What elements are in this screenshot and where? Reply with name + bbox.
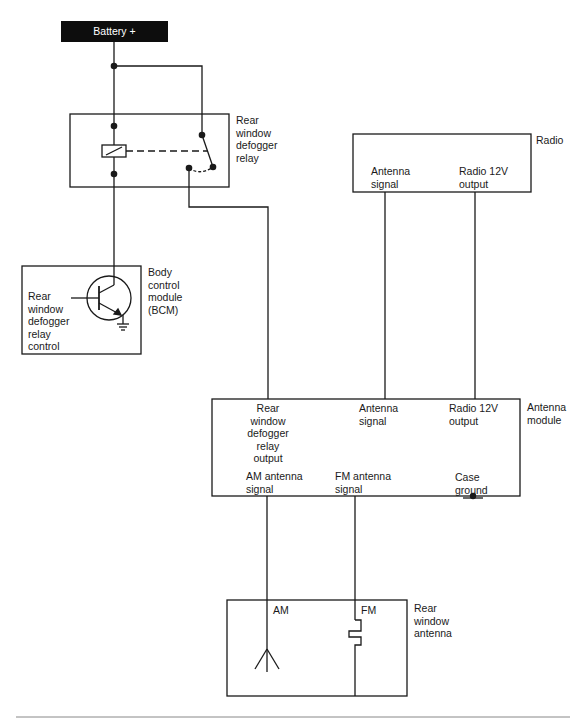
- relay-label: Rear window defogger relay: [236, 114, 277, 164]
- radio-pin-12v-output: Radio 12V output: [459, 165, 508, 190]
- radio-label: Radio: [536, 134, 563, 147]
- bcm-label: Body control module (BCM): [148, 266, 182, 316]
- am-pin-case-ground: Case ground: [455, 471, 488, 496]
- wire-relay-output: [189, 168, 268, 399]
- am-pin-fm-signal: FM antenna signal: [335, 470, 391, 495]
- wiring-diagram: [0, 0, 588, 724]
- bcm-inner-label: Rear window defogger relay control: [28, 290, 69, 353]
- wire-battery-to-switch: [114, 66, 202, 135]
- battery-label: Battery +: [61, 21, 168, 42]
- am-pin-defogger-output: Rear window defogger relay output: [240, 402, 296, 465]
- am-pin-antenna-signal: Antenna signal: [359, 402, 398, 427]
- fm-antenna-element-icon: [349, 620, 361, 696]
- rear-window-antenna-label: Rear window antenna: [414, 602, 452, 640]
- fm-label: FM: [361, 604, 376, 617]
- am-pin-am-signal: AM antenna signal: [246, 470, 303, 495]
- am-label: AM: [273, 604, 289, 617]
- junction-battery: [111, 63, 118, 70]
- antenna-module-label: Antenna module: [527, 401, 566, 426]
- am-antenna-icon: [255, 649, 267, 669]
- am-pin-radio-12v: Radio 12V output: [449, 402, 498, 427]
- radio-pin-antenna-signal: Antenna signal: [371, 165, 410, 190]
- rear-window-antenna-box: [227, 600, 407, 696]
